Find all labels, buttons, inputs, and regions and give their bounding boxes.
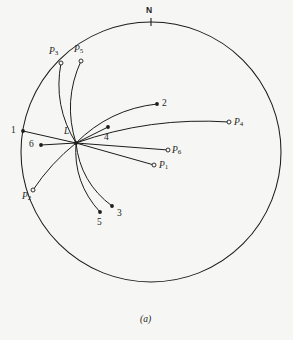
point-markers: [21, 59, 231, 214]
point-label-p1: P1: [159, 161, 168, 171]
arc-l-to-p2: [33, 143, 76, 190]
point-label-2: 2: [162, 99, 167, 109]
great-circle-arcs: [23, 61, 229, 212]
center-point-label-L: L: [64, 127, 69, 137]
point-marker-p6: [166, 148, 170, 152]
figure-caption: (a): [140, 315, 151, 325]
point-label-p2: P2: [22, 192, 31, 202]
point-marker-3: [110, 204, 114, 208]
point-marker-p3: [59, 61, 63, 65]
point-marker-1: [21, 129, 25, 133]
arc-l-to-3: [76, 143, 112, 206]
arc-l-to-p5: [70, 61, 81, 143]
figure-canvas: [0, 0, 293, 340]
stereographic-projection-figure: N L P1P2P3P4P5P6123456 (a): [0, 0, 293, 340]
point-label-p4: P4: [234, 118, 243, 128]
center-point-marker-l: [74, 141, 78, 145]
point-label-p6: P6: [172, 146, 181, 156]
point-marker-p1: [152, 163, 156, 167]
point-marker-p5: [79, 59, 83, 63]
point-marker-5: [98, 210, 102, 214]
point-label-p3: P3: [49, 47, 58, 57]
point-label-5: 5: [97, 218, 102, 228]
point-label-p5: P5: [74, 45, 83, 55]
point-label-6: 6: [29, 140, 34, 150]
point-marker-2: [155, 102, 159, 106]
arc-l-to-5: [76, 143, 100, 212]
north-label: N: [146, 6, 152, 15]
point-marker-p4: [227, 120, 231, 124]
point-marker-4: [106, 125, 110, 129]
arc-l-to-6: [41, 143, 76, 145]
point-marker-6: [39, 143, 43, 147]
point-label-1: 1: [11, 126, 16, 136]
point-label-4: 4: [104, 133, 109, 143]
point-marker-p2: [31, 188, 35, 192]
point-label-3: 3: [117, 209, 122, 219]
